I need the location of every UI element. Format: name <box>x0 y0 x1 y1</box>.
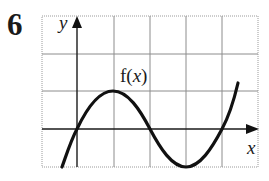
x-axis-label: x <box>246 137 256 158</box>
function-label: f(x) <box>120 65 147 87</box>
y-axis-label: y <box>57 12 68 33</box>
grid <box>42 16 258 167</box>
y-axis-arrow-icon <box>72 16 82 28</box>
function-close-paren: ) <box>141 65 147 87</box>
function-graph: y x f(x) <box>0 0 269 181</box>
x-axis-arrow-icon <box>246 124 259 134</box>
